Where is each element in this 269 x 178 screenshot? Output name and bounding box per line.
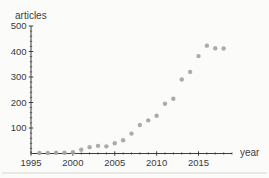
x-tick-label: 2000 [62,157,83,168]
data-point [79,147,83,151]
data-point [196,54,200,58]
data-point [146,118,150,122]
data-point [121,138,125,142]
data-point [138,123,142,127]
y-tick-label: 200 [11,97,27,108]
data-point [213,46,217,50]
data-point [62,151,66,155]
x-tick-label: 1995 [20,157,41,168]
article-count-scatter-plot: articles 1002003004005001995200020052010… [0,0,269,178]
data-point [46,151,50,155]
data-point [129,131,133,135]
data-point [96,144,100,148]
data-point [113,141,117,145]
x-tick-label: 2010 [146,157,167,168]
data-point [180,77,184,81]
data-point [37,151,41,155]
data-point [171,96,175,100]
y-tick-label: 100 [11,122,27,133]
data-point [221,46,225,50]
data-point [163,102,167,106]
data-point [205,43,209,47]
data-point [104,144,108,148]
x-tick-label: 2015 [188,157,209,168]
data-point [188,70,192,74]
data-point [154,114,158,118]
x-tick-label: 2005 [104,157,125,168]
y-tick-label: 300 [11,71,27,82]
data-point [87,145,91,149]
y-tick-label: 400 [11,46,27,57]
page-edge-shadow [2,172,267,174]
data-point [54,151,58,155]
data-point [71,150,75,154]
chart-canvas: 10020030040050019952000200520102015 [0,0,269,178]
y-tick-label: 500 [11,20,27,31]
x-axis-title: year [240,148,259,158]
